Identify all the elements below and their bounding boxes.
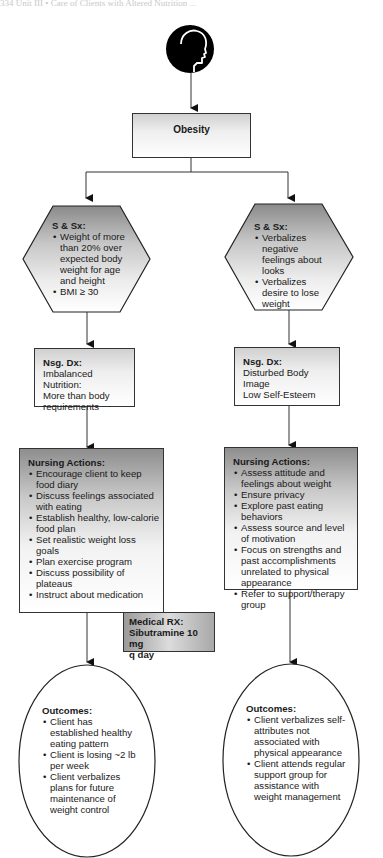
sx-title-left: S & Sx: xyxy=(52,220,128,231)
sx-item-left-1: •BMI ≥ 30 xyxy=(52,286,128,297)
nursing-actions-left: Nursing Actions: Encourage client to kee… xyxy=(19,448,164,613)
medical-rx-box: Medical RX: Sibutramine 10 mg q day xyxy=(123,612,215,652)
outcome-item: •Client is losing ~2 lb per week xyxy=(42,749,142,771)
outcomes-right: Outcomes: •Client verbalizes self-attrib… xyxy=(246,703,346,802)
nsg-dx-line: requirements xyxy=(43,401,130,412)
outcome-item: •Client attends regular support group fo… xyxy=(246,758,346,802)
signs-symptoms-right: S & Sx: •Verbalizes negative feelings ab… xyxy=(254,221,332,309)
actions-title-right: Nursing Actions: xyxy=(233,456,353,467)
action-item: Assess source and level of motivation xyxy=(233,522,353,544)
rx-title: Medical RX: xyxy=(129,616,211,627)
action-item: Discuss feelings associated with eating xyxy=(28,490,159,512)
rx-line: q day xyxy=(129,649,211,660)
action-item: Discuss possibility of plateaus xyxy=(28,567,159,589)
nsg-dx-line: More than body xyxy=(43,390,130,401)
nsg-dx-line: Low Self-Esteem xyxy=(243,389,335,400)
action-item: Set realistic weight loss goals xyxy=(28,534,159,556)
rx-line: Sibutramine 10 mg xyxy=(129,627,211,649)
action-item: Refer to support/therapy group xyxy=(233,588,353,610)
nsg-dx-title-left: Nsg. Dx: xyxy=(43,357,130,368)
nursing-actions-right: Nursing Actions: Assess attitude and fee… xyxy=(224,447,358,590)
action-item: Explore past eating behaviors xyxy=(233,500,353,522)
nsg-dx-line: Disturbed Body Image xyxy=(243,367,335,389)
head-profile-icon xyxy=(166,25,214,73)
sx-item-left-0: •Weight of more than 20% over expected b… xyxy=(52,231,128,286)
nursing-diagnosis-left: Nsg. Dx: Imbalanced Nutrition: More than… xyxy=(34,348,135,407)
outcomes-title-right: Outcomes: xyxy=(246,703,346,714)
action-item: Assess attitude and feelings about weigh… xyxy=(233,467,353,489)
outcome-item: •Client verbalizes self-attributes not a… xyxy=(246,714,346,758)
nsg-dx-line: Imbalanced Nutrition: xyxy=(43,368,130,390)
outcome-item: •Client has established healthy eating p… xyxy=(42,716,142,749)
sx-title-right: S & Sx: xyxy=(254,221,332,232)
sx-item-right-1: •Verbalizes desire to lose weight xyxy=(254,276,332,309)
action-item: Plan exercise program xyxy=(28,556,159,567)
action-item: Encourage client to keep food diary xyxy=(28,468,159,490)
action-item: Focus on strengths and past accomplishme… xyxy=(233,544,353,588)
action-item: Establish healthy, low-calorie food plan xyxy=(28,512,159,534)
root-node-obesity: Obesity xyxy=(132,113,251,158)
root-label: Obesity xyxy=(173,124,210,135)
outcomes-title-left: Outcomes: xyxy=(42,705,142,716)
signs-symptoms-left: S & Sx: •Weight of more than 20% over ex… xyxy=(52,220,128,297)
nursing-diagnosis-right: Nsg. Dx: Disturbed Body Image Low Self-E… xyxy=(234,347,340,406)
sx-item-right-0: •Verbalizes negative feelings about look… xyxy=(254,232,332,276)
outcome-item: •Client verbalizes plans for future main… xyxy=(42,771,142,815)
nsg-dx-title-right: Nsg. Dx: xyxy=(243,356,335,367)
actions-title-left: Nursing Actions: xyxy=(28,457,159,468)
action-item: Ensure privacy xyxy=(233,489,353,500)
action-item: Instruct about medication xyxy=(28,589,159,600)
outcomes-left: Outcomes: •Client has established health… xyxy=(42,705,142,815)
